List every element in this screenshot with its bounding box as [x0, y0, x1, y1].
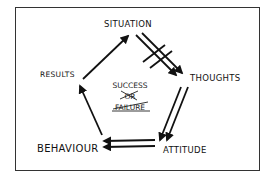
center-success: SUCCESS	[105, 80, 155, 91]
arrow-results-to-situation	[83, 36, 128, 79]
arrow-behaviour-to-results	[80, 86, 102, 135]
center-text: SUCCESS OR FAILURE	[105, 80, 155, 113]
arrow-situation-to-thoughts	[136, 33, 182, 75]
center-or-crossed: OR	[105, 91, 155, 102]
node-results: RESULTS	[40, 71, 75, 79]
arrow-thoughts-to-attitude	[160, 87, 188, 140]
arrow-attitude-to-behaviour	[104, 140, 155, 147]
node-behaviour: BEHAVIOUR	[37, 144, 99, 154]
node-situation: SITUATION	[104, 20, 152, 29]
node-attitude: ATTITUDE	[163, 146, 207, 155]
center-failure-crossed: FAILURE	[105, 102, 155, 113]
node-thoughts: THOUGHTS	[190, 74, 240, 83]
